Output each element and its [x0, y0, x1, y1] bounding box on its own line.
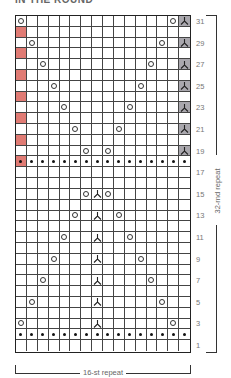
- chart-cell: [92, 340, 103, 351]
- chart-cell: [179, 232, 190, 243]
- knitting-chart-grid: [15, 15, 191, 353]
- yarn-over-icon: [170, 18, 176, 24]
- chart-round-29: [16, 38, 190, 49]
- chart-cell: [81, 48, 92, 59]
- chart-cell: [60, 70, 71, 81]
- chart-cell: [81, 92, 92, 103]
- chart-cell: [125, 16, 136, 27]
- purl-dot-icon: [150, 333, 153, 336]
- chart-cell: [179, 221, 190, 232]
- chart-cell: [60, 135, 71, 146]
- chart-cell: [49, 286, 60, 297]
- chart-cell: [92, 38, 103, 49]
- chart-cell: [136, 221, 147, 232]
- chart-cell: [49, 189, 60, 200]
- yarn-over-icon: [138, 83, 144, 89]
- chart-cell: [27, 16, 38, 27]
- yarn-over-icon: [170, 320, 176, 326]
- chart-round-20: [16, 135, 190, 146]
- chart-cell: [179, 200, 190, 211]
- sk2p-decrease-icon: [92, 211, 102, 221]
- chart-cell: [92, 265, 103, 276]
- chart-cell: [70, 211, 81, 222]
- chart-cell: [168, 167, 179, 178]
- chart-cell: [16, 48, 27, 59]
- chart-cell: [60, 59, 71, 70]
- sk2p-decrease-icon: [92, 254, 102, 264]
- chart-cell: [179, 81, 190, 92]
- chart-cell: [157, 27, 168, 38]
- chart-cell: [125, 135, 136, 146]
- chart-cell: [157, 265, 168, 276]
- chart-cell: [16, 297, 27, 308]
- chart-cell: [114, 81, 125, 92]
- chart-cell: [147, 146, 158, 157]
- chart-cell: [60, 38, 71, 49]
- chart-cell: [49, 265, 60, 276]
- chart-cell: [27, 211, 38, 222]
- row-number-label: 7: [196, 276, 210, 285]
- chart-cell: [147, 254, 158, 265]
- purl-dot-icon: [117, 333, 120, 336]
- row-number-label: 13: [196, 211, 210, 220]
- chart-round-3: [16, 319, 190, 330]
- chart-cell: [157, 254, 168, 265]
- chart-cell: [125, 167, 136, 178]
- row-number-label: 29: [196, 39, 210, 48]
- purl-dot-icon: [41, 333, 44, 336]
- chart-cell: [49, 275, 60, 286]
- chart-cell: [60, 189, 71, 200]
- chart-cell: [168, 135, 179, 146]
- chart-cell: [92, 319, 103, 330]
- chart-cell: [125, 48, 136, 59]
- chart-cell: [157, 102, 168, 113]
- yarn-over-icon: [72, 212, 78, 218]
- purl-dot-icon: [161, 160, 164, 163]
- chart-cell: [114, 329, 125, 340]
- chart-cell: [168, 27, 179, 38]
- chart-cell: [60, 329, 71, 340]
- chart-cell: [81, 297, 92, 308]
- chart-cell: [168, 297, 179, 308]
- purl-dot-icon: [74, 333, 77, 336]
- chart-cell: [147, 275, 158, 286]
- chart-cell: [179, 27, 190, 38]
- purl-dot-icon: [85, 160, 88, 163]
- chart-cell: [92, 275, 103, 286]
- chart-cell: [16, 135, 27, 146]
- chart-cell: [157, 59, 168, 70]
- chart-cell: [168, 232, 179, 243]
- chart-cell: [70, 221, 81, 232]
- chart-cell: [49, 254, 60, 265]
- chart-cell: [168, 340, 179, 351]
- chart-cell: [136, 254, 147, 265]
- chart-cell: [27, 167, 38, 178]
- chart-cell: [49, 70, 60, 81]
- chart-cell: [16, 308, 27, 319]
- chart-cell: [49, 167, 60, 178]
- chart-cell: [27, 59, 38, 70]
- chart-cell: [60, 211, 71, 222]
- chart-cell: [92, 178, 103, 189]
- chart-cell: [136, 16, 147, 27]
- chart-cell: [125, 70, 136, 81]
- chart-cell: [16, 113, 27, 124]
- chart-round-24: [16, 92, 190, 103]
- chart-cell: [38, 329, 49, 340]
- chart-cell: [49, 124, 60, 135]
- chart-cell: [92, 59, 103, 70]
- row-number-label: 17: [196, 168, 210, 177]
- row-number-label: 27: [196, 60, 210, 69]
- chart-cell: [103, 135, 114, 146]
- chart-cell: [38, 254, 49, 265]
- chart-cell: [114, 113, 125, 124]
- yarn-over-icon: [105, 191, 111, 197]
- chart-cell: [27, 340, 38, 351]
- chart-cell: [179, 135, 190, 146]
- chart-cell: [125, 113, 136, 124]
- chart-cell: [157, 167, 168, 178]
- chart-cell: [38, 297, 49, 308]
- chart-cell: [157, 70, 168, 81]
- chart-cell: [16, 156, 27, 167]
- purl-dot-icon: [172, 333, 175, 336]
